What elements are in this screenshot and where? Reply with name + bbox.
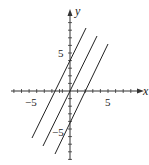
y-axis: y 5 −5	[52, 4, 81, 160]
y-axis-label: y	[74, 4, 81, 18]
x-tick-label-neg5: −5	[25, 96, 37, 108]
y-tick-label-pos5: 5	[58, 47, 64, 59]
x-axis: x −5 5	[11, 84, 149, 108]
y-tick-label-neg5: −5	[52, 126, 64, 138]
x-tick-label-pos5: 5	[105, 96, 111, 108]
chart-canvas: x −5 5 y 5 −5	[0, 0, 149, 165]
y-axis-arrow-icon	[68, 9, 73, 16]
line-y-2x-plus-4	[32, 28, 86, 138]
line-y-2x-minus-4	[55, 44, 108, 154]
x-axis-label: x	[142, 84, 149, 98]
